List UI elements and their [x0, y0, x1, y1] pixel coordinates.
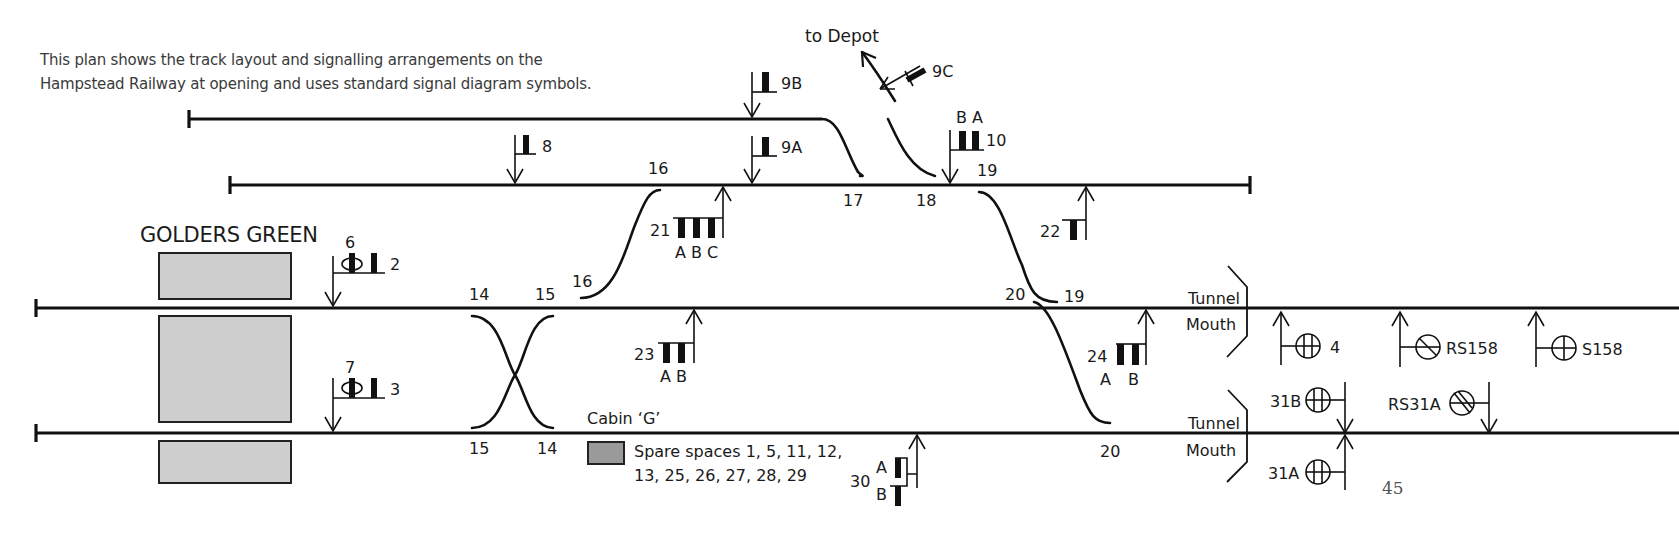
signal-9A-label: 9A: [781, 138, 802, 157]
signal-31B: 31B: [1270, 382, 1353, 433]
signal-10-label: 10: [986, 131, 1006, 150]
platform-1: [159, 253, 291, 299]
signal-RS158-label: RS158: [1446, 339, 1498, 358]
station-name: GOLDERS GREEN: [140, 223, 318, 247]
signal-4: 4: [1273, 312, 1340, 365]
signalling-diagram: This plan shows the track layout and sig…: [0, 0, 1679, 538]
tunnel-mouth-lower: Tunnel Mouth: [1186, 390, 1247, 482]
signal-2-6: 6 2: [325, 233, 400, 306]
signal-22: 22: [1040, 187, 1094, 241]
point-15-bottom: 15: [469, 439, 489, 458]
signal-31A: 31A: [1268, 435, 1353, 490]
signal-31A-label: 31A: [1268, 464, 1299, 483]
point-14-top: 14: [469, 285, 489, 304]
cabin-label: Cabin ‘G’: [587, 409, 660, 428]
depot-label: to Depot: [805, 26, 879, 46]
platform-3: [159, 441, 291, 483]
cabin-key-swatch: [588, 442, 624, 464]
signal-9B: 9B: [744, 72, 802, 117]
signal-24-arm-a: A: [1100, 370, 1111, 389]
signal-10-arms: B A: [956, 108, 983, 127]
point-18: 18: [916, 191, 936, 210]
tunnel-mouth-upper: Tunnel Mouth: [1186, 266, 1247, 357]
signal-4-label: 4: [1330, 338, 1340, 357]
signal-30-arm-b: B: [876, 485, 887, 504]
intro-text: This plan shows the track layout and sig…: [40, 48, 591, 96]
signal-23-label: 23: [634, 345, 654, 364]
point-15-top: 15: [535, 285, 555, 304]
signal-30: A B 30: [850, 435, 925, 506]
signal-31B-label: 31B: [1270, 392, 1301, 411]
spare-spaces-line2: 13, 25, 26, 27, 28, 29: [634, 466, 807, 485]
point-14-bottom: 14: [537, 439, 557, 458]
point-20-lower: 20: [1100, 442, 1120, 461]
signal-7-label: 7: [345, 358, 355, 377]
signal-9C: 9C: [880, 62, 953, 89]
scissors-14-15-a: [472, 316, 553, 428]
platform-2: [159, 316, 291, 422]
signal-6-label: 6: [345, 233, 355, 252]
signal-21: 21 A B C: [650, 187, 731, 262]
signal-23: 23 A B: [634, 310, 702, 386]
crossover-16: [581, 190, 660, 298]
tunnel-lower-line2: Mouth: [1186, 441, 1236, 460]
signal-24: 24 A B: [1087, 310, 1154, 389]
signal-3-7: 7 3: [325, 358, 400, 431]
point-16-upper: 16: [648, 159, 668, 178]
point-19-lower: 19: [1064, 287, 1084, 306]
signal-8: 8: [507, 135, 552, 183]
signal-22-label: 22: [1040, 222, 1060, 241]
point-20-upper: 20: [1005, 285, 1025, 304]
signal-3-label: 3: [390, 380, 400, 399]
signal-30-label: 30: [850, 472, 870, 491]
signal-21-label: 21: [650, 221, 670, 240]
signal-S158: S158: [1528, 312, 1623, 367]
siding-lower: [230, 176, 1250, 194]
tunnel-upper-line1: Tunnel: [1187, 289, 1240, 308]
signal-S158-label: S158: [1582, 340, 1623, 359]
point-16-lower: 16: [572, 272, 592, 291]
intro-line-2: Hampstead Railway at opening and uses st…: [40, 72, 591, 96]
signal-23-arms: A B: [660, 367, 687, 386]
tunnel-lower-line1: Tunnel: [1187, 414, 1240, 433]
signal-24-arm-b: B: [1128, 370, 1139, 389]
spare-spaces-line1: Spare spaces 1, 5, 11, 12,: [634, 442, 842, 461]
point-19-upper: 19: [977, 161, 997, 180]
signal-8-label: 8: [542, 137, 552, 156]
running-line-upper: [36, 299, 1679, 317]
running-line-lower: [36, 424, 1679, 442]
signal-RS158: RS158: [1392, 312, 1498, 367]
tunnel-upper-line2: Mouth: [1186, 315, 1236, 334]
signal-9A: 9A: [744, 136, 802, 183]
signal-9C-label: 9C: [932, 62, 953, 81]
signal-30-arm-a: A: [876, 458, 887, 477]
point-17: 17: [843, 191, 863, 210]
signal-21-arms: A B C: [675, 243, 718, 262]
intro-line-1: This plan shows the track layout and sig…: [40, 48, 591, 72]
signal-9B-label: 9B: [781, 74, 802, 93]
signal-2-label: 2: [390, 255, 400, 274]
signal-RS31A-label: RS31A: [1388, 395, 1441, 414]
page-number: 45: [1382, 478, 1404, 498]
signal-RS31A: RS31A: [1388, 382, 1497, 433]
signal-24-label: 24: [1087, 347, 1107, 366]
